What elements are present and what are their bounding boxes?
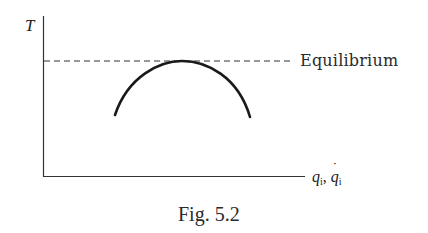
figure-caption: Fig. 5.2: [178, 204, 240, 224]
x-var-qdot: q: [331, 169, 339, 185]
equilibrium-label: Equilibrium: [300, 53, 398, 69]
x-var-qdot-subscript: i: [339, 176, 342, 187]
x-var-q: q: [312, 168, 320, 185]
y-axis-label: T: [25, 17, 34, 34]
x-axis-label: qi, qi: [312, 169, 342, 187]
temperature-curve: [115, 61, 250, 117]
figure-canvas: [0, 0, 428, 233]
x-label-separator: ,: [323, 168, 327, 185]
